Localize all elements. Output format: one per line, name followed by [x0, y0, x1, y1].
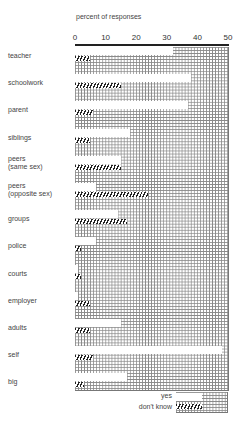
bar-dont-know	[75, 219, 127, 224]
category-label: employer	[8, 297, 37, 305]
x-axis-line	[75, 44, 229, 46]
bar-dont-know	[75, 301, 90, 306]
legend-dont-know-swatch	[176, 404, 202, 409]
legend-yes-label: yes	[112, 392, 172, 399]
bar-dont-know	[75, 138, 90, 143]
bar-yes	[75, 346, 222, 354]
plot-grid	[75, 47, 229, 391]
category-label: police	[8, 242, 26, 250]
category-label: peers(same sex)	[8, 155, 43, 171]
x-tick-label: 0	[73, 33, 77, 42]
category-label: courts	[8, 270, 27, 278]
category-label: teacher	[8, 52, 31, 60]
bar-dont-know	[75, 355, 93, 360]
bar-dont-know	[75, 165, 121, 170]
x-tick-label: 10	[101, 33, 110, 42]
bar-yes	[75, 129, 130, 137]
bar-yes	[75, 47, 173, 55]
bar-dont-know	[75, 83, 121, 88]
bar-dont-know	[75, 274, 81, 279]
bar-yes	[75, 183, 96, 191]
bar-dont-know	[75, 110, 93, 115]
bar-yes	[75, 319, 121, 327]
bar-yes	[75, 373, 127, 381]
category-label: adults	[8, 324, 27, 332]
bar-dont-know	[75, 192, 148, 197]
bar-yes	[75, 292, 78, 300]
axis-title: percent of responses	[76, 13, 141, 20]
category-label: schoolwork	[8, 79, 43, 87]
category-label: big	[8, 378, 17, 386]
bar-dont-know	[75, 382, 84, 387]
bar-dont-know	[75, 246, 81, 251]
bar-yes	[75, 101, 188, 109]
x-tick-label: 50	[224, 33, 233, 42]
x-tick-label: 30	[162, 33, 171, 42]
legend-dont-know-label: don't know	[112, 403, 172, 410]
category-label: parent	[8, 106, 28, 114]
category-label: groups	[8, 215, 29, 223]
x-tick-label: 20	[132, 33, 141, 42]
x-tick-label: 40	[193, 33, 202, 42]
bar-yes	[75, 156, 121, 164]
bar-yes	[75, 74, 191, 82]
category-label: peers(opposite sex)	[8, 182, 52, 198]
bar-yes	[75, 265, 78, 273]
bar-dont-know	[75, 328, 90, 333]
legend-yes-swatch	[176, 392, 202, 401]
bar-dont-know	[75, 56, 90, 61]
bar-yes	[75, 237, 96, 245]
category-label: self	[8, 351, 19, 359]
bar-yes	[75, 210, 118, 218]
category-label: siblings	[8, 134, 31, 142]
